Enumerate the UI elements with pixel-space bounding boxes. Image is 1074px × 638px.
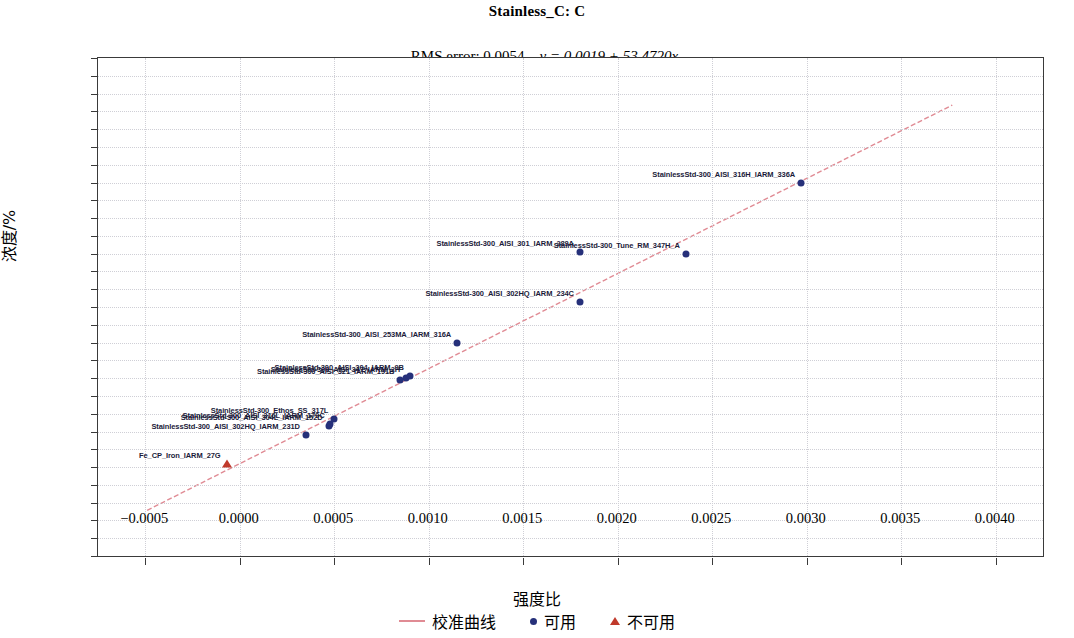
gridline-vertical (145, 58, 146, 556)
gridline-vertical (712, 58, 713, 556)
data-point-marker[interactable] (302, 432, 309, 439)
x-axis-tick (712, 558, 713, 565)
chart-page: Stainless_C: C RMS error: 0.0054 y = 0.0… (0, 0, 1074, 638)
data-point-label: StainlessStd-300_Tune_RM_347H_A (554, 242, 680, 250)
y-axis-tick (91, 343, 98, 344)
y-axis-tick (91, 503, 98, 504)
gridline-vertical (523, 58, 524, 556)
y-axis-tick (91, 183, 98, 184)
y-axis-tick (91, 165, 98, 166)
x-axis-tick-label: 0.0010 (408, 511, 448, 526)
x-axis-tick (145, 558, 146, 565)
y-axis-tick (91, 378, 98, 379)
legend-item-unusable: 不可用 (610, 609, 675, 633)
y-axis-tick (91, 58, 98, 59)
y-axis-tick (91, 200, 98, 201)
x-axis-tick-label: 0.0015 (502, 511, 542, 526)
y-axis-tick (91, 396, 98, 397)
y-axis-tick (91, 289, 98, 290)
y-axis-tick (91, 432, 98, 433)
data-point-marker[interactable] (454, 339, 461, 346)
x-axis-tick-label: 0.0000 (219, 511, 259, 526)
data-point-marker[interactable] (682, 250, 689, 257)
y-axis-tick (91, 556, 98, 557)
data-point-label: StainlessStd-300_Ethos_SS_317L (211, 407, 328, 415)
data-point-marker[interactable] (331, 416, 338, 423)
x-axis-tick-label: 0.0025 (691, 511, 731, 526)
y-axis-tick (91, 538, 98, 539)
plot-area: Fe_CP_Iron_IARM_27GStainlessStd-300_AISI… (97, 57, 1044, 557)
x-axis-tick (807, 558, 808, 565)
x-axis-tick (240, 558, 241, 565)
gridline-vertical (334, 58, 335, 556)
gridline-vertical (901, 58, 902, 556)
y-axis-tick (91, 129, 98, 130)
y-axis-tick (91, 449, 98, 450)
y-axis-tick (91, 254, 98, 255)
x-axis-tick-label: 0.0040 (975, 511, 1015, 526)
gridline-vertical (618, 58, 619, 556)
data-point-label: StainlessStd-300_AISI_302HQ_IARM_234C (425, 290, 573, 298)
y-axis-tick (91, 307, 98, 308)
y-axis-tick (91, 94, 98, 95)
gridline-vertical (429, 58, 430, 556)
legend-item-calibration-curve: 校准曲线 (399, 609, 496, 633)
x-axis-tick (523, 558, 524, 565)
data-point-label: StainlessStd-300_AISI_316H_IARM_336A (652, 171, 795, 179)
gridline-vertical (996, 58, 997, 556)
y-axis-tick (91, 467, 98, 468)
y-axis-title: 浓度/% (0, 210, 20, 263)
data-point-label: StainlessStd-300_AISI_304_IARM_9B (275, 365, 404, 373)
y-axis-tick (91, 218, 98, 219)
data-point-label: StainlessStd-300_AISI_253MA_IARM_316A (302, 331, 451, 339)
legend-item-usable: 可用 (530, 609, 576, 633)
x-axis-tick-label: 0.0005 (313, 511, 353, 526)
y-axis-tick (91, 414, 98, 415)
data-point-marker[interactable] (798, 179, 805, 186)
data-point-marker[interactable] (406, 373, 413, 380)
legend-label: 可用 (544, 609, 576, 633)
legend-label: 不可用 (627, 609, 675, 633)
legend-label: 校准曲线 (432, 609, 496, 633)
circle-marker-icon (530, 618, 537, 625)
gridline-vertical (240, 58, 241, 556)
y-axis-tick (91, 147, 98, 148)
gridline-vertical (807, 58, 808, 556)
chart-legend: 校准曲线 可用 不可用 (0, 609, 1074, 633)
x-axis-tick-label: −0.0005 (120, 511, 168, 526)
data-point-marker[interactable] (576, 298, 583, 305)
y-axis-tick (91, 520, 98, 521)
y-axis-tick (91, 236, 98, 237)
x-axis-title: 强度比 (0, 586, 1074, 610)
line-swatch-icon (399, 620, 425, 622)
data-point-label: StainlessStd-300_AISI_302HQ_IARM_231D (151, 423, 299, 431)
data-point-label: Fe_CP_Iron_IARM_27G (139, 452, 220, 460)
x-axis-tick (429, 558, 430, 565)
y-axis-tick (91, 111, 98, 112)
data-point-marker[interactable] (222, 459, 232, 467)
y-axis-tick (91, 271, 98, 272)
x-axis-tick-label: 0.0030 (786, 511, 826, 526)
y-axis-tick (91, 360, 98, 361)
x-axis-tick (334, 558, 335, 565)
x-axis-tick-label: 0.0020 (597, 511, 637, 526)
x-axis-tick-label: 0.0035 (880, 511, 920, 526)
y-axis-tick (91, 325, 98, 326)
triangle-marker-icon (610, 617, 620, 625)
x-axis-tick (618, 558, 619, 565)
x-axis-tick (901, 558, 902, 565)
x-axis-tick (996, 558, 997, 565)
y-axis-tick (91, 76, 98, 77)
y-axis-tick (91, 485, 98, 486)
chart-title: Stainless_C: C (0, 3, 1074, 20)
